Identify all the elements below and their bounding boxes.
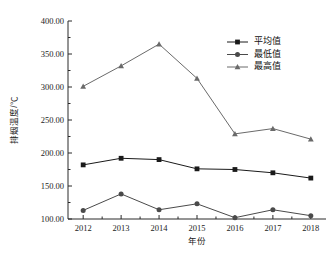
y-tick-label: 350.00 (41, 49, 64, 59)
data-point-marker (157, 207, 162, 212)
y-tick-label: 250.00 (41, 115, 64, 125)
data-point-marker (233, 167, 238, 172)
y-tick-label: 100.00 (41, 214, 64, 224)
top-cropped-caption-strip (0, 0, 334, 6)
data-point-marker (232, 215, 237, 220)
x-tick-label: 2015 (189, 223, 206, 233)
data-point-marker (118, 63, 124, 68)
axes (68, 21, 326, 219)
data-point-marker (270, 207, 275, 212)
data-point-marker (119, 156, 124, 161)
legend: 平均值最低值最高值 (227, 35, 281, 71)
legend-marker (235, 52, 240, 57)
x-tick-label: 2016 (226, 223, 243, 233)
y-tick-label: 300.00 (41, 82, 64, 92)
y-axis-ticks: 100.00150.00200.00250.00300.00350.00400.… (41, 16, 72, 224)
data-point-marker (195, 201, 200, 206)
data-point-marker (195, 166, 200, 171)
x-tick-label: 2018 (302, 223, 319, 233)
y-tick-label: 150.00 (41, 181, 64, 191)
x-axis-ticks: 2012201320142015201620172018 (75, 215, 320, 233)
data-point-marker (156, 41, 162, 46)
data-point-marker (81, 208, 86, 213)
data-point-marker (308, 213, 313, 218)
x-tick-label: 2013 (113, 223, 130, 233)
chart-figure: 100.00150.00200.00250.00300.00350.00400.… (0, 0, 334, 275)
top-cropped-caption-text (62, 0, 65, 3)
data-point-marker (270, 126, 276, 131)
data-point-marker (81, 162, 86, 167)
legend-label: 最高值 (254, 60, 281, 71)
legend-label: 最低值 (254, 48, 281, 59)
legend-label: 平均值 (254, 35, 281, 46)
data-point-marker (80, 83, 86, 88)
line-chart-canvas: 100.00150.00200.00250.00300.00350.00400.… (0, 0, 334, 275)
x-tick-label: 2014 (151, 223, 169, 233)
x-tick-label: 2012 (75, 223, 92, 233)
data-point-marker (157, 157, 162, 162)
axis-lines (68, 21, 326, 219)
y-tick-label: 400.00 (41, 16, 64, 26)
legend-marker (235, 40, 240, 45)
y-axis-title: 排烟温度/℃ (9, 96, 19, 143)
x-tick-label: 2017 (264, 223, 281, 233)
data-point-marker (270, 170, 275, 175)
y-tick-label: 200.00 (41, 148, 64, 158)
data-point-marker (119, 191, 124, 196)
data-series (81, 156, 313, 181)
data-point-marker (308, 176, 313, 181)
x-axis-title: 年份 (188, 236, 206, 246)
